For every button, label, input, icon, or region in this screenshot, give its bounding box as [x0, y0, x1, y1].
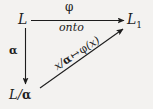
- quotient-base: L/: [9, 87, 22, 102]
- node-label-source-L: L: [18, 12, 27, 26]
- edge-label-alpha-vertical: α: [9, 45, 17, 56]
- node-label-target-L1: L1: [127, 12, 142, 30]
- edge-label-onto-below-horizontal: onto: [59, 22, 84, 33]
- commutative-diagram: L L1 L/α φ onto α x/α↦φ(x): [0, 0, 153, 109]
- edge-label-phi-above-horizontal: φ: [65, 1, 73, 13]
- node-label-quotient-L-mod-alpha: L/α: [9, 88, 31, 101]
- quotient-alpha-glyph: α: [22, 88, 31, 102]
- node-L1-base: L: [127, 11, 136, 27]
- node-L1-subscript: 1: [136, 20, 142, 30]
- arrow-diagonal-induced-map: [40, 29, 123, 88]
